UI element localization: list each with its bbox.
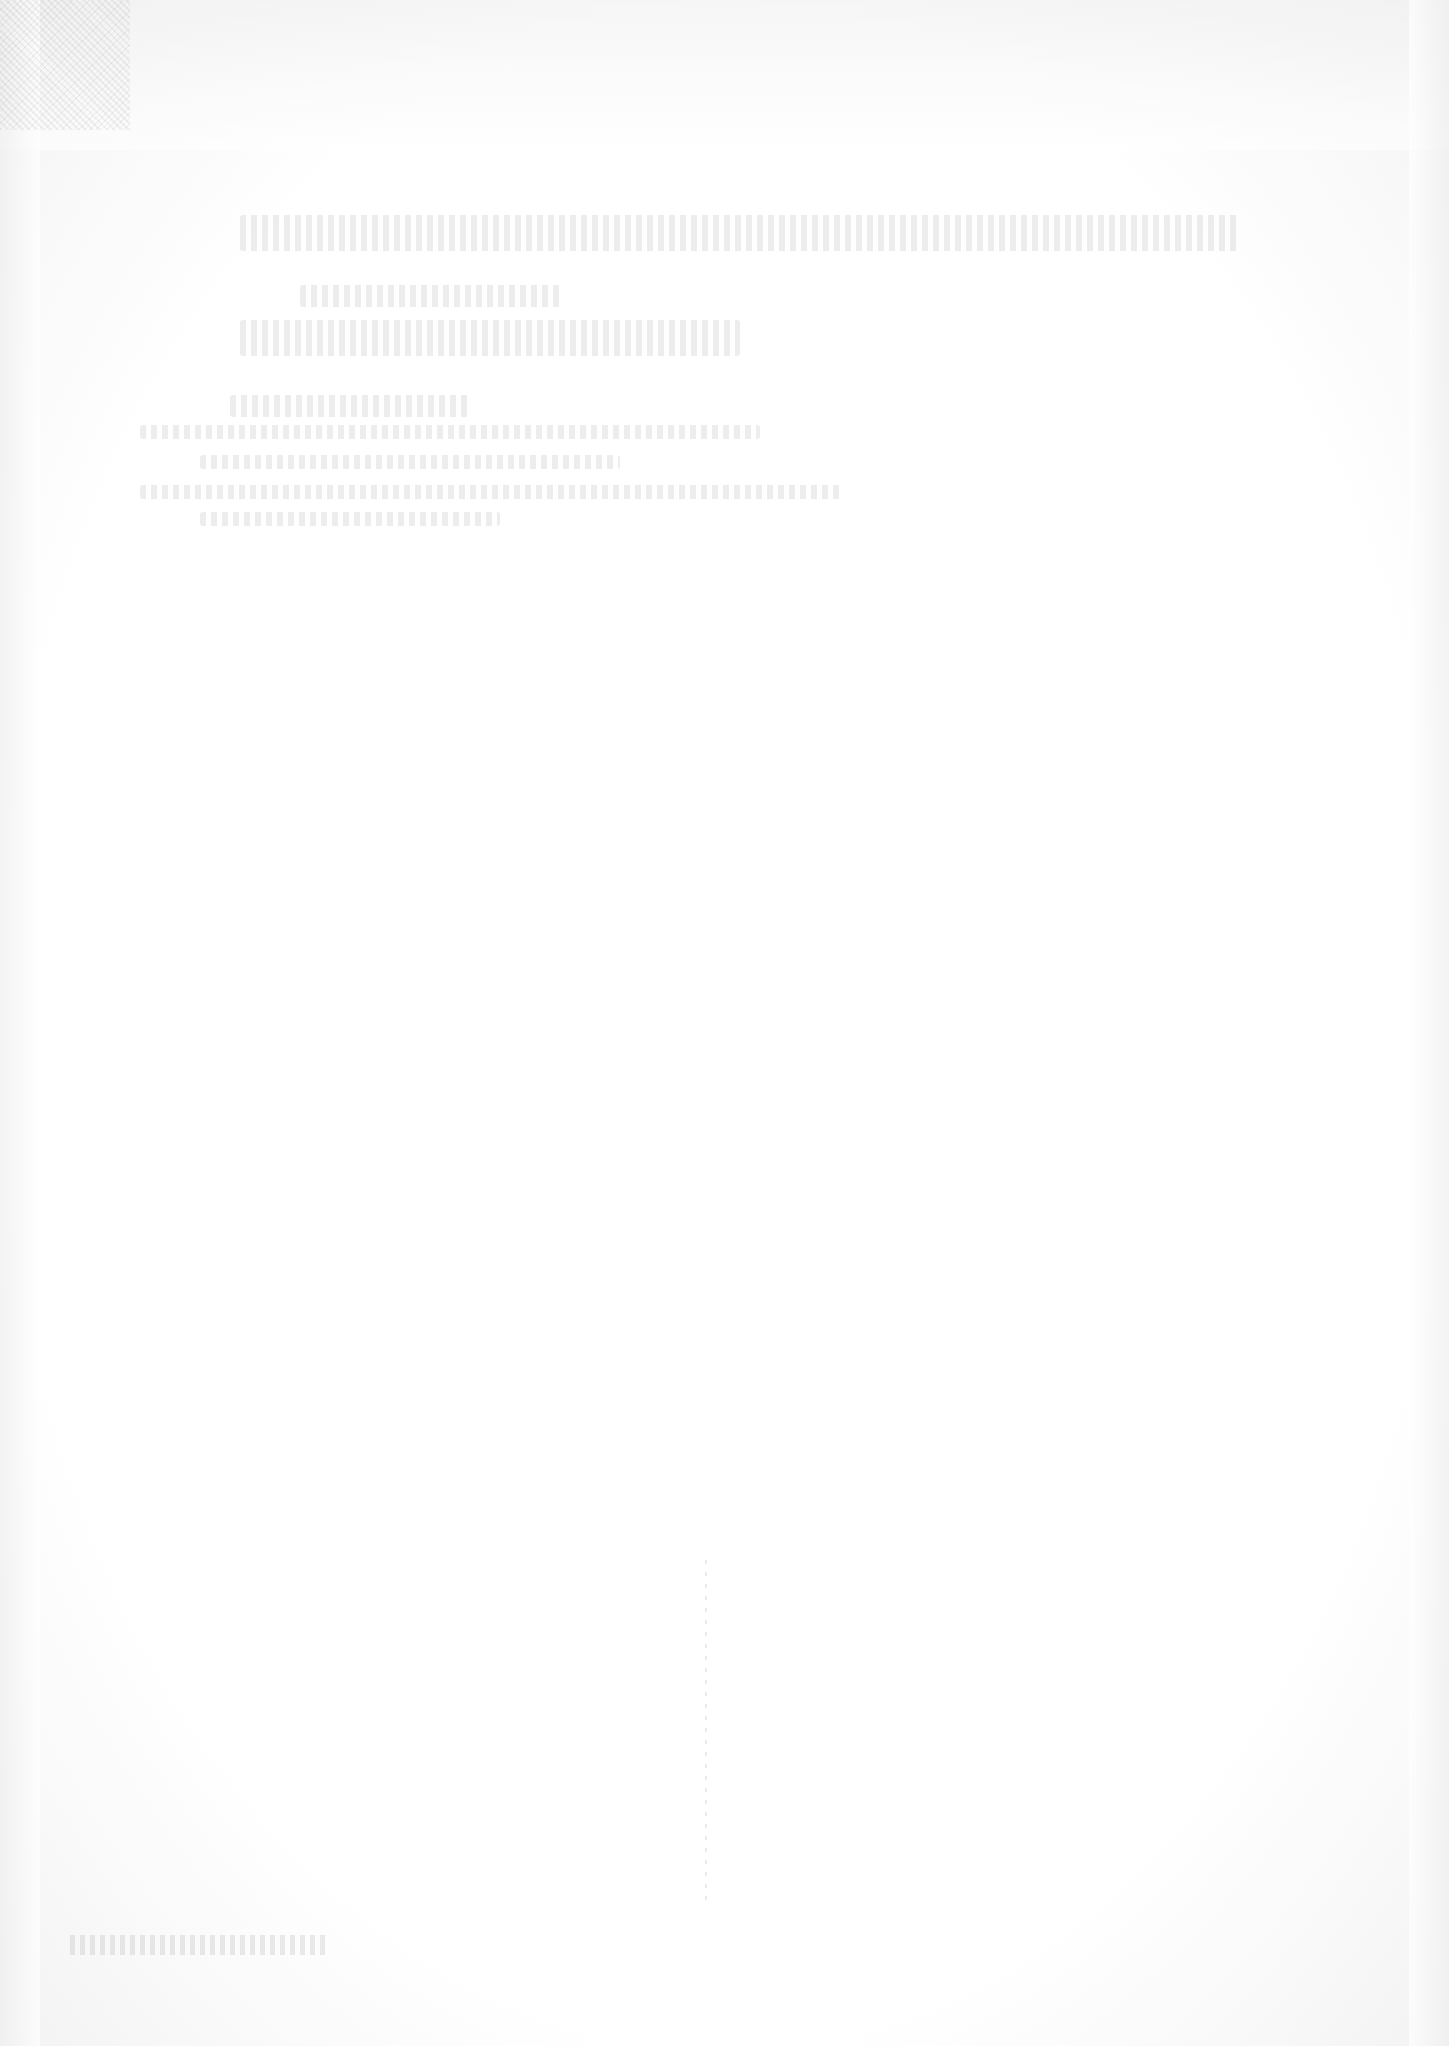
heading-line-1-ink [240, 215, 1240, 251]
footer-mark-ink [70, 1935, 330, 1955]
body-line-ink [200, 455, 620, 469]
subtitle-line-2-ink [230, 395, 470, 417]
body-line-ink [200, 512, 500, 526]
subtitle-line-1-ink [300, 285, 560, 307]
body-line-ink [140, 425, 760, 439]
heading-line-2-ink [240, 320, 740, 356]
page-edge-shadow-right [1409, 0, 1449, 2046]
body-line-ink [140, 485, 840, 499]
page-edge-shadow-left [0, 0, 40, 2046]
scan-noise-corner [0, 0, 130, 130]
scanned-page [0, 0, 1449, 2046]
faint-vertical-rule [705, 1560, 707, 1900]
page-edge-shadow-top [0, 0, 1449, 150]
